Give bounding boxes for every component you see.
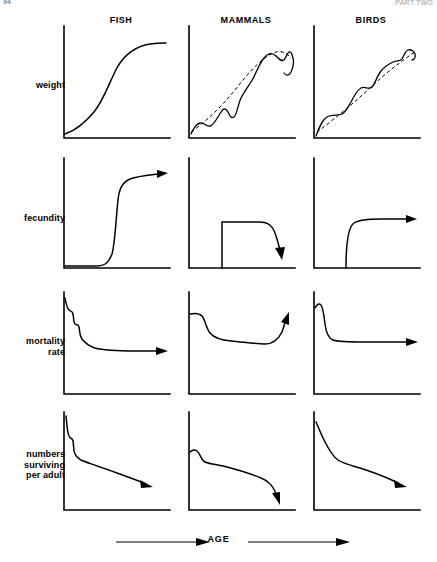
panel-survivorship-birds — [308, 410, 426, 522]
panel-fecundity-fish — [58, 156, 176, 274]
arrow-head-survivorship-birds — [394, 480, 407, 488]
arrow-head-survivorship-fish — [140, 480, 153, 488]
row-label-mortality-rate: mortalityrate — [0, 336, 65, 357]
panel-fecundity-mammals — [183, 156, 301, 274]
panel-mortality-fish — [58, 290, 176, 402]
panel-weight-fish — [58, 24, 176, 144]
panel-fecundity-birds — [308, 156, 426, 274]
arrow-head-mortality-fish — [156, 347, 168, 355]
panel-mortality-mammals — [183, 290, 301, 402]
panel-weight-mammals — [183, 24, 301, 144]
page-header-right: PART TWO — [395, 0, 433, 6]
arrow-head-mortality-birds — [406, 338, 418, 346]
row-label-weight: weight — [0, 80, 65, 91]
panel-weight-birds — [308, 24, 426, 144]
arrow-head-fecundity-mammals — [275, 247, 285, 260]
arrow-head-mortality-mammals — [281, 312, 289, 325]
arrow-head-survivorship-mammals — [272, 492, 280, 505]
arrow-head-fecundity-fish — [157, 170, 168, 178]
figure-page: 94 PART TWO FISH MAMMALS BIRDS weight fe… — [0, 0, 437, 562]
panel-survivorship-fish — [58, 410, 176, 522]
age-axis-label: AGE — [0, 534, 437, 544]
arrow-head-fecundity-birds — [406, 215, 417, 223]
panel-mortality-birds — [308, 290, 426, 402]
panel-survivorship-mammals — [183, 410, 301, 522]
page-number-left: 94 — [3, 0, 11, 5]
row-label-fecundity: fecundity — [0, 213, 65, 224]
row-label-numbers-surviving-per-adult: numberssurvivingper adult — [0, 449, 65, 481]
